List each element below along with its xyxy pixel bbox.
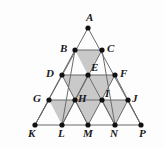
vertex-label-b: B — [60, 43, 67, 54]
vertex-label-f: F — [120, 68, 127, 79]
vertex-point-c — [99, 47, 104, 52]
vertex-label-e: E — [91, 62, 98, 73]
vertex-label-p: P — [139, 128, 146, 139]
vertex-point-a — [85, 25, 90, 30]
vertex-label-m: M — [83, 128, 93, 139]
vertex-label-k: K — [28, 128, 35, 139]
vertex-point-h — [72, 97, 77, 102]
vertex-point-i — [99, 97, 104, 102]
vertex-point-e — [85, 72, 90, 77]
vertex-label-l: L — [58, 128, 65, 139]
triangle-IJN — [102, 100, 128, 125]
shaded-regions-layer — [49, 50, 128, 125]
vertex-point-g — [46, 97, 51, 102]
triangle-diagram-svg — [0, 0, 164, 147]
vertex-label-g: G — [33, 93, 41, 104]
vertex-point-b — [72, 47, 77, 52]
vertex-point-j — [125, 97, 130, 102]
geometry-figure: ABCDEFGHIJKLMNP — [0, 0, 164, 147]
vertex-point-f — [112, 72, 117, 77]
vertex-label-c: C — [107, 43, 114, 54]
vertex-label-a: A — [86, 12, 93, 23]
vertex-label-n: N — [110, 128, 118, 139]
triangle-GHL — [49, 100, 75, 125]
vertex-label-h: H — [78, 93, 87, 104]
vertex-point-d — [59, 72, 64, 77]
vertex-label-j: J — [132, 93, 138, 104]
vertex-label-d: D — [46, 68, 54, 79]
vertex-label-i: I — [105, 88, 109, 99]
